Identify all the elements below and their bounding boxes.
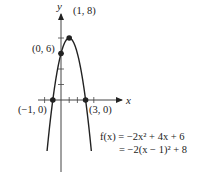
point-label-y-intercept: (0, 6): [32, 43, 55, 55]
point-marker: [50, 97, 56, 103]
parabola-curve: [47, 38, 91, 151]
x-axis-label: x: [125, 94, 131, 106]
point-marker: [66, 35, 72, 41]
equation-line-1: f(x) = −2x² + 4x + 6: [100, 131, 185, 143]
parabola-diagram: x y (1, 8) (0, 6) (−1, 0) (3, 0) f(x) = …: [0, 0, 208, 184]
point-marker: [83, 97, 89, 103]
points: [50, 35, 88, 103]
point-label-right-root: (3, 0): [89, 104, 112, 116]
point-label-vertex: (1, 8): [73, 5, 96, 17]
point-label-left-root: (−1, 0): [18, 104, 47, 116]
equation-line-2: = −2(x − 1)² + 8: [119, 144, 187, 156]
y-axis-label: y: [56, 0, 62, 12]
point-marker: [58, 51, 64, 57]
